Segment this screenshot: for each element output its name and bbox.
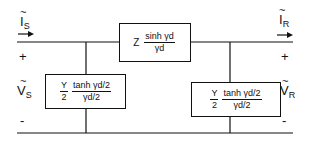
series-prefix: Z [133, 37, 139, 48]
sending-voltage-label: VS [17, 84, 32, 97]
left-coef-numerator: Y [60, 80, 68, 92]
arrow-right-icon [18, 31, 34, 37]
right-coef-numerator: Y [210, 88, 218, 100]
right-shunt-fraction: tanh γd/2 γd/2 [222, 88, 261, 111]
sending-plus: + [19, 50, 27, 63]
sending-minus: - [20, 114, 24, 127]
left-coef-fraction: Y 2 [60, 80, 68, 103]
sending-current-label: IS [20, 15, 30, 28]
right-coef-denominator: 2 [212, 100, 217, 111]
right-coef-fraction: Y 2 [210, 88, 218, 111]
receiving-minus: - [282, 114, 286, 127]
right-shunt-admittance-box: Y 2 tanh γd/2 γd/2 [191, 82, 281, 117]
receiving-current-label: IR [279, 13, 289, 26]
series-impedance-box: Z sinh γd γd [119, 23, 191, 62]
right-shunt-denominator: γd/2 [233, 100, 250, 111]
left-shunt-numerator: tanh γd/2 [72, 80, 111, 92]
right-shunt-numerator: tanh γd/2 [222, 88, 261, 100]
series-denominator: γd [155, 43, 165, 54]
arrow-right-icon [277, 32, 293, 38]
receiving-voltage-label: VR [280, 84, 295, 97]
series-numerator: sinh γd [144, 31, 175, 43]
left-shunt-fraction: tanh γd/2 γd/2 [72, 80, 111, 103]
circuit-wires [0, 0, 310, 141]
series-fraction: sinh γd γd [144, 31, 175, 54]
receiving-plus: + [281, 50, 289, 63]
left-coef-denominator: 2 [61, 92, 66, 103]
left-shunt-denominator: γd/2 [83, 92, 100, 103]
left-shunt-admittance-box: Y 2 tanh γd/2 γd/2 [45, 74, 126, 109]
